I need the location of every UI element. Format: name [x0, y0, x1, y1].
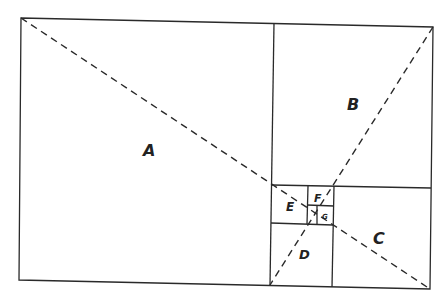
divider-b-c: [272, 185, 431, 188]
divider-c-d: [332, 186, 334, 287]
label-g: G: [322, 213, 328, 221]
divider-a-b: [270, 23, 274, 285]
diagonal-main: [21, 18, 430, 289]
label-d: D: [299, 247, 310, 262]
diagonal-secondary: [270, 27, 433, 285]
label-c: C: [373, 229, 385, 248]
label-b: B: [347, 95, 359, 114]
golden-rectangle-diagram: A B C D E F G: [0, 0, 448, 301]
label-e: E: [286, 200, 295, 214]
label-a: A: [141, 141, 155, 160]
divider-d-e: [271, 223, 333, 225]
label-f: F: [314, 192, 322, 205]
